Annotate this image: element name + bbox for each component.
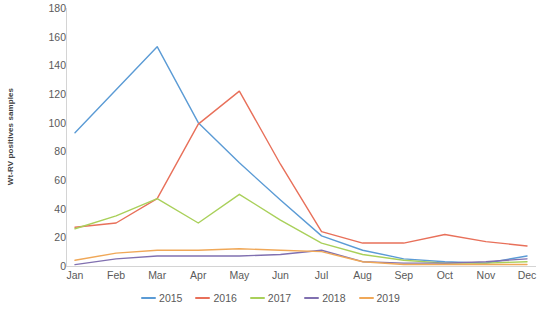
- rotavirus-positives-line-chart: Wt-RV positives samples 0204060801001201…: [0, 0, 541, 325]
- legend-swatch-2017: [250, 297, 265, 299]
- x-axis-tick-sep: Sep: [394, 270, 413, 281]
- y-axis-tick-labels: 020406080100120140160180: [22, 0, 66, 272]
- plot-svg: [70, 8, 532, 266]
- x-axis-tick-may: May: [229, 270, 249, 281]
- y-axis-tick-40: 40: [22, 203, 66, 214]
- legend-item-2018[interactable]: 2018: [304, 293, 345, 304]
- y-axis-tick-140: 140: [22, 60, 66, 71]
- legend-label-2015: 2015: [159, 293, 182, 304]
- series-line-2015: [75, 47, 527, 263]
- x-axis-tick-mar: Mar: [148, 270, 166, 281]
- legend-swatch-2015: [141, 297, 156, 299]
- x-axis-tick-labels: JanFebMarAprMayJunJulAugSepOctNovDec: [70, 270, 532, 286]
- chart-legend: 20152016201720182019: [0, 293, 541, 304]
- y-axis-tick-180: 180: [22, 3, 66, 14]
- x-axis-tick-nov: Nov: [477, 270, 496, 281]
- x-axis-tick-dec: Dec: [518, 270, 537, 281]
- x-axis-tick-apr: Apr: [190, 270, 206, 281]
- x-axis-tick-jun: Jun: [272, 270, 289, 281]
- x-axis-tick-oct: Oct: [437, 270, 453, 281]
- legend-label-2019: 2019: [377, 293, 400, 304]
- plot-area: [70, 8, 532, 266]
- y-axis-title-text: Wt-RV positives samples: [7, 87, 16, 184]
- y-axis-tick-120: 120: [22, 89, 66, 100]
- x-axis-tick-jul: Jul: [315, 270, 328, 281]
- legend-label-2016: 2016: [213, 293, 236, 304]
- legend-label-2017: 2017: [268, 293, 291, 304]
- y-axis-tick-100: 100: [22, 117, 66, 128]
- legend-label-2018: 2018: [322, 293, 345, 304]
- legend-swatch-2016: [195, 297, 210, 299]
- y-axis-tick-0: 0: [22, 261, 66, 272]
- legend-item-2015[interactable]: 2015: [141, 293, 182, 304]
- legend-item-2019[interactable]: 2019: [359, 293, 400, 304]
- x-axis-line: [66, 266, 536, 267]
- x-axis-tick-feb: Feb: [107, 270, 125, 281]
- legend-item-2016[interactable]: 2016: [195, 293, 236, 304]
- legend-swatch-2019: [359, 297, 374, 299]
- legend-item-2017[interactable]: 2017: [250, 293, 291, 304]
- legend-swatch-2018: [304, 297, 319, 299]
- y-axis-line: [66, 8, 67, 266]
- y-axis-tick-60: 60: [22, 175, 66, 186]
- y-axis-tick-160: 160: [22, 31, 66, 42]
- y-axis-tick-20: 20: [22, 232, 66, 243]
- x-axis-tick-jan: Jan: [67, 270, 84, 281]
- x-axis-tick-aug: Aug: [353, 270, 372, 281]
- series-line-2018: [75, 250, 527, 264]
- series-line-2016: [75, 91, 527, 246]
- y-axis-tick-80: 80: [22, 146, 66, 157]
- y-axis-title: Wt-RV positives samples: [0, 0, 22, 272]
